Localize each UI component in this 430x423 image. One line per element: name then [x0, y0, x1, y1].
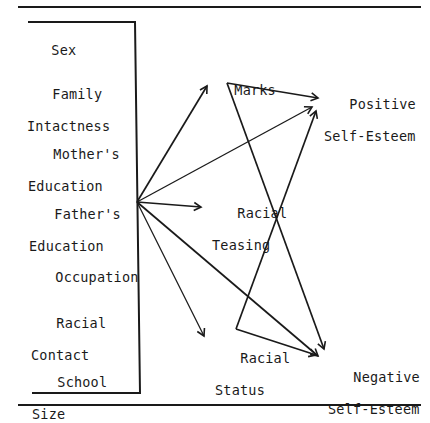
edge-predictors-marks	[137, 86, 207, 202]
node-racial-teasing: Racial Teasing	[204, 189, 287, 285]
node-label-line2: Self-Esteem	[316, 128, 416, 144]
predictor-label-line1: Occupation	[55, 269, 138, 285]
node-label-line1: Racial	[237, 205, 287, 221]
predictor-occupation: Occupation	[22, 253, 139, 301]
node-marks: Marks	[201, 66, 276, 114]
predictor-label-line2: Size	[24, 406, 107, 422]
predictor-label-line1: Family	[52, 86, 102, 102]
node-negative-self-esteem: Negative Self-Esteem	[320, 353, 420, 423]
edge-predictors-positive	[137, 107, 312, 202]
node-marks-label: Marks	[234, 82, 276, 98]
predictor-label-line1: Mother's	[53, 146, 120, 162]
predictor-label-line1: Racial	[56, 315, 106, 331]
edge-predictors-teasing	[137, 202, 201, 207]
predictor-sex-label: Sex	[51, 42, 76, 58]
node-label-line1: Positive	[349, 96, 416, 112]
edge-predictors-status	[137, 202, 204, 336]
node-label-line1: Racial	[240, 350, 290, 366]
node-label-line2: Self-Esteem	[320, 401, 420, 417]
node-positive-self-esteem: Positive Self-Esteem	[316, 80, 416, 176]
predictor-label-line1: Father's	[54, 206, 121, 222]
node-racial-status: Racial Status	[207, 334, 290, 423]
predictor-label-line1: School	[57, 374, 107, 390]
predictor-label-line2: Education	[21, 238, 121, 254]
predictor-school-size: School Size	[24, 358, 107, 423]
node-label-line1: Negative	[353, 369, 420, 385]
node-label-line2: Status	[207, 382, 290, 398]
node-label-line2: Teasing	[204, 237, 287, 253]
predictor-sex: Sex	[18, 26, 76, 74]
